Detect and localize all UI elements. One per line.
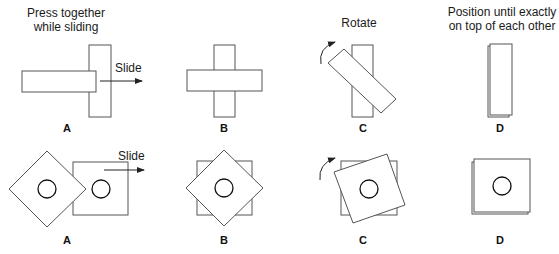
bottom-panel-a: Slide A — [9, 149, 145, 246]
hole — [215, 179, 233, 197]
rotate-arrow-icon — [320, 158, 335, 180]
top-panel-a: Slide A — [22, 45, 142, 134]
panel-label: D — [496, 234, 504, 246]
panel-label: A — [63, 122, 71, 134]
panel-label: D — [496, 122, 504, 134]
caption-a-line1: Press together — [27, 6, 105, 20]
top-panel-c: C — [321, 42, 396, 134]
caption-d-line1: Position until exactly — [448, 5, 557, 19]
top-panel-d: D — [488, 44, 512, 134]
alignment-diagram: Press together while sliding Rotate Posi… — [0, 0, 559, 254]
top-panel-b: B — [187, 45, 262, 134]
caption-d-line2: on top of each other — [449, 19, 556, 33]
hole — [38, 180, 56, 198]
bottom-panel-d: D — [472, 159, 530, 246]
slide-label: Slide — [115, 61, 142, 75]
panel-label: A — [63, 234, 71, 246]
slide-label: Slide — [118, 149, 145, 163]
horizontal-bar — [187, 70, 262, 91]
caption-c: Rotate — [341, 16, 377, 30]
bottom-panel-c: C — [320, 154, 405, 246]
caption-a-line2: while sliding — [33, 20, 99, 34]
hole — [360, 180, 378, 198]
panel-label: B — [220, 122, 228, 134]
panel-label: B — [220, 234, 228, 246]
panel-label: C — [359, 234, 367, 246]
bottom-panel-b: B — [186, 150, 263, 246]
hole — [493, 177, 511, 195]
hole — [92, 180, 110, 198]
horizontal-bar — [22, 71, 96, 92]
front-bar — [490, 44, 512, 115]
panel-label: C — [359, 122, 367, 134]
